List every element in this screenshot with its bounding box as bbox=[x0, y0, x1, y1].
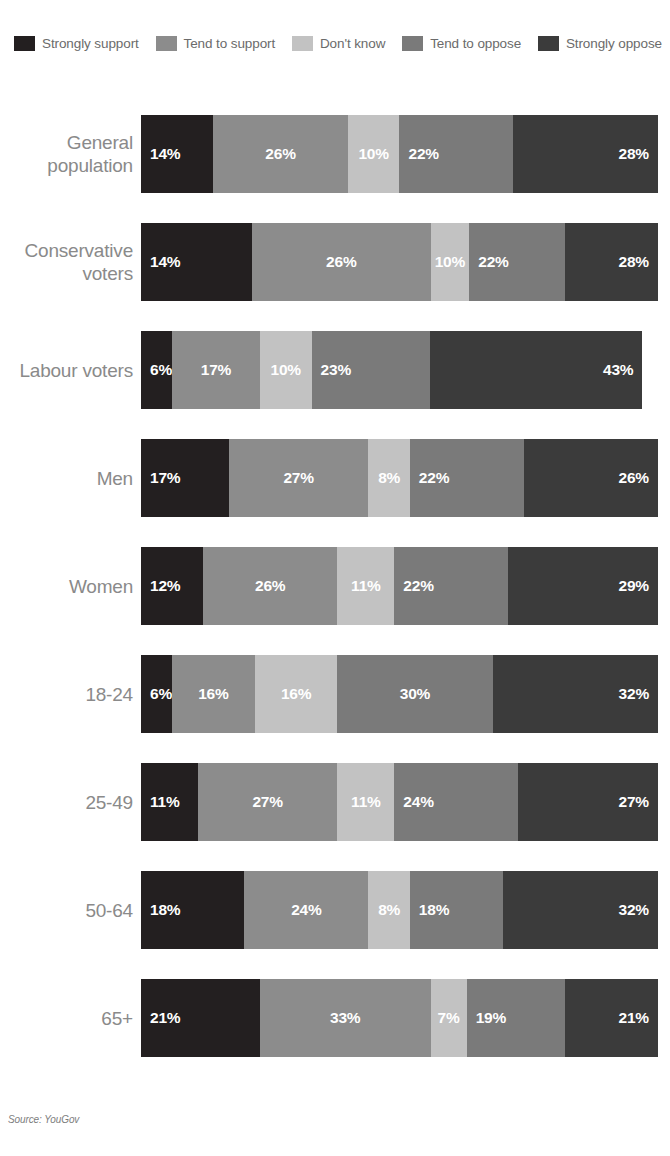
bar-segment-value-label: 12% bbox=[141, 578, 189, 594]
bar-segment-value-label: 7% bbox=[431, 1010, 467, 1026]
row-category-label: 25-49 bbox=[0, 791, 141, 814]
legend-item-label: Strongly oppose bbox=[566, 36, 662, 51]
bar-segment-value-label: 19% bbox=[467, 1010, 515, 1026]
row-category-label-line: 65+ bbox=[0, 1007, 133, 1030]
bar-segment: 22% bbox=[469, 223, 565, 301]
chart-row: Men17%27%8%22%26% bbox=[0, 424, 670, 532]
chart-row: Labour voters6%17%10%23%43% bbox=[0, 316, 670, 424]
bar-segment: 17% bbox=[141, 439, 229, 517]
legend-swatch-icon bbox=[156, 36, 177, 51]
legend-swatch-icon bbox=[14, 36, 35, 51]
stacked-bar-chart: Generalpopulation14%26%10%22%28%Conserva… bbox=[0, 100, 670, 1072]
legend-item: Strongly oppose bbox=[538, 36, 662, 51]
bar-segment-value-label: 26% bbox=[317, 254, 365, 270]
bar-segment: 16% bbox=[172, 655, 255, 733]
bar-segment: 21% bbox=[141, 979, 260, 1057]
chart-row: 18-246%16%16%30%32% bbox=[0, 640, 670, 748]
legend-item-label: Tend to support bbox=[184, 36, 276, 51]
bar-segment-value-label: 28% bbox=[610, 146, 658, 162]
legend-swatch-icon bbox=[538, 36, 559, 51]
bar-segment: 27% bbox=[518, 763, 658, 841]
bar-segment-value-label: 26% bbox=[246, 578, 294, 594]
stacked-bar: 6%17%10%23%43% bbox=[141, 331, 658, 409]
bar-segment: 43% bbox=[430, 331, 642, 409]
row-category-label: Conservativevoters bbox=[0, 239, 141, 285]
row-category-label: 18-24 bbox=[0, 683, 141, 706]
bar-segment: 24% bbox=[394, 763, 518, 841]
bar-segment: 6% bbox=[141, 331, 172, 409]
stacked-bar: 11%27%11%24%27% bbox=[141, 763, 658, 841]
row-category-label: 50-64 bbox=[0, 899, 141, 922]
chart-row: 65+21%33%7%19%21% bbox=[0, 964, 670, 1072]
bar-segment-value-label: 10% bbox=[262, 362, 310, 378]
bar-segment: 28% bbox=[513, 115, 658, 193]
bar-segment: 17% bbox=[172, 331, 260, 409]
row-category-label-line: Women bbox=[0, 575, 133, 598]
row-category-label-line: population bbox=[0, 154, 133, 177]
bar-segment-value-label: 24% bbox=[394, 794, 442, 810]
row-category-label-line: voters bbox=[0, 262, 133, 285]
bar-segment: 26% bbox=[213, 115, 347, 193]
bar-segment: 8% bbox=[368, 871, 409, 949]
bar-segment-value-label: 17% bbox=[192, 362, 240, 378]
bar-segment: 11% bbox=[141, 763, 198, 841]
row-category-label: Generalpopulation bbox=[0, 131, 141, 177]
bar-segment-value-label: 26% bbox=[610, 470, 658, 486]
legend-item: Don't know bbox=[292, 36, 385, 51]
bar-segment: 10% bbox=[431, 223, 470, 301]
bar-segment-value-label: 6% bbox=[141, 362, 172, 378]
bar-segment-value-label: 8% bbox=[369, 902, 409, 918]
source-note: Source: YouGov bbox=[8, 1114, 79, 1125]
legend-swatch-icon bbox=[292, 36, 313, 51]
row-category-label-line: 25-49 bbox=[0, 791, 133, 814]
bar-segment: 32% bbox=[493, 655, 658, 733]
top-clipped-headline-strip bbox=[0, 0, 670, 12]
row-category-label-line: 18-24 bbox=[0, 683, 133, 706]
chart-row: 25-4911%27%11%24%27% bbox=[0, 748, 670, 856]
stacked-bar: 6%16%16%30%32% bbox=[141, 655, 658, 733]
bar-segment-value-label: 21% bbox=[610, 1010, 658, 1026]
bar-segment: 11% bbox=[337, 547, 394, 625]
bar-segment: 32% bbox=[503, 871, 658, 949]
bar-segment-value-label: 11% bbox=[342, 578, 390, 594]
row-category-label: 65+ bbox=[0, 1007, 141, 1030]
bar-segment-value-label: 16% bbox=[272, 686, 320, 702]
bar-segment-value-label: 10% bbox=[349, 146, 397, 162]
legend-item: Tend to support bbox=[156, 36, 276, 51]
bar-segment: 10% bbox=[348, 115, 400, 193]
row-category-label: Men bbox=[0, 467, 141, 490]
bar-segment-value-label: 17% bbox=[141, 470, 189, 486]
bar-segment-value-label: 22% bbox=[410, 470, 458, 486]
stacked-bar: 14%26%10%22%28% bbox=[141, 115, 658, 193]
bar-segment: 22% bbox=[394, 547, 508, 625]
bar-segment: 11% bbox=[337, 763, 394, 841]
bar-segment: 18% bbox=[410, 871, 503, 949]
bar-segment-value-label: 14% bbox=[141, 146, 189, 162]
bar-segment-value-label: 27% bbox=[610, 794, 658, 810]
bar-segment-value-label: 24% bbox=[282, 902, 330, 918]
row-category-label-line: 50-64 bbox=[0, 899, 133, 922]
bar-segment-value-label: 28% bbox=[610, 254, 658, 270]
bar-segment-value-label: 23% bbox=[312, 362, 360, 378]
bar-segment: 24% bbox=[244, 871, 368, 949]
bar-segment-value-label: 16% bbox=[189, 686, 237, 702]
bar-segment: 6% bbox=[141, 655, 172, 733]
bar-segment: 18% bbox=[141, 871, 244, 949]
bar-segment: 27% bbox=[229, 439, 369, 517]
bar-segment-value-label: 32% bbox=[610, 902, 658, 918]
bar-segment-value-label: 18% bbox=[410, 902, 458, 918]
bar-segment-value-label: 6% bbox=[141, 686, 172, 702]
bar-segment: 26% bbox=[252, 223, 430, 301]
bar-segment-value-label: 22% bbox=[399, 146, 447, 162]
bar-segment-value-label: 21% bbox=[141, 1010, 189, 1026]
legend-item: Tend to oppose bbox=[402, 36, 521, 51]
bar-segment-value-label: 27% bbox=[274, 470, 322, 486]
bar-segment-value-label: 14% bbox=[141, 254, 189, 270]
bar-segment: 12% bbox=[141, 547, 203, 625]
row-category-label: Labour voters bbox=[0, 359, 141, 382]
bar-segment-value-label: 26% bbox=[256, 146, 304, 162]
bar-segment: 19% bbox=[467, 979, 565, 1057]
bar-segment-value-label: 29% bbox=[610, 578, 658, 594]
bar-segment: 22% bbox=[410, 439, 524, 517]
stacked-bar: 12%26%11%22%29% bbox=[141, 547, 658, 625]
